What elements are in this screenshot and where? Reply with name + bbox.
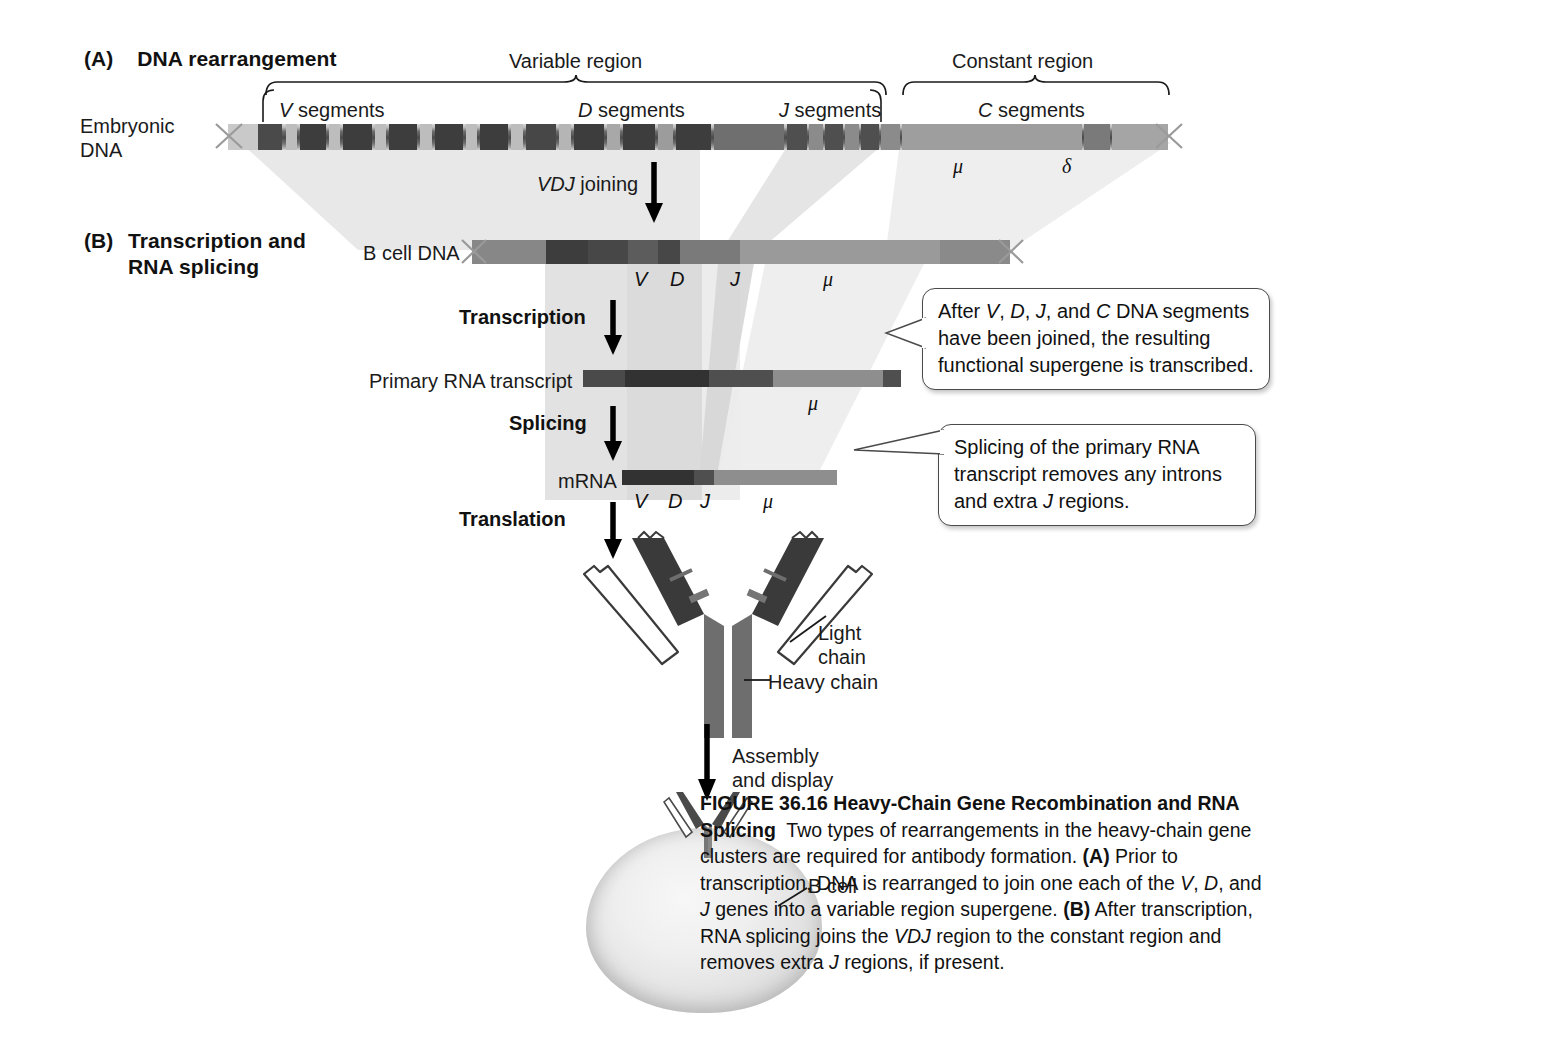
v-segments-bracket — [261, 89, 275, 123]
mrna-j-mark: J — [700, 490, 710, 513]
light-chain-label: Light chain — [818, 621, 866, 669]
figure-caption-b-tag: (B) — [1063, 898, 1090, 920]
vdj-joining-italic: VDJ — [537, 173, 575, 195]
c-segments-rest: segments — [992, 99, 1084, 121]
variable-region-bracket — [265, 74, 887, 96]
bcell-mu-mark: μ — [823, 268, 833, 291]
b-cell-dna-label: B cell DNA — [363, 241, 460, 265]
splicing-callout-line-2: transcript removes any introns — [954, 461, 1241, 488]
mrna-mu-mark: μ — [763, 490, 773, 513]
v-segments-italic: V — [279, 99, 292, 121]
v-segments-rest: segments — [292, 99, 384, 121]
embryonic-dna-left-cap — [214, 120, 240, 146]
panel-b-tag: (B) — [84, 228, 113, 254]
panel-b-title-1: Transcription and — [128, 228, 306, 254]
constant-region-bracket — [902, 74, 1170, 96]
heavy-chain-label: Heavy chain — [768, 670, 878, 694]
splicing-arrow — [600, 406, 626, 462]
embryonic-dna-bar — [228, 124, 1168, 150]
mrna-d-mark: D — [668, 490, 682, 513]
embryonic-dna-right-cap — [1152, 120, 1178, 146]
panel-b-title-2: RNA splicing — [128, 254, 306, 280]
j-segments-bracket — [869, 89, 883, 123]
d-segments-italic: D — [578, 99, 592, 121]
figure-number: FIGURE 36.16 — [700, 792, 828, 814]
mrna-label: mRNA — [558, 469, 617, 493]
c-segments-label: C segments — [978, 98, 1085, 122]
mrna-v-mark: V — [634, 490, 647, 513]
variable-region-label: Variable region — [509, 49, 642, 73]
embryonic-delta-label: δ — [1062, 155, 1071, 178]
figure-caption: FIGURE 36.16 Heavy-Chain Gene Recombinat… — [700, 790, 1266, 976]
vdj-joining-rest: joining — [575, 173, 638, 195]
transcription-arrow — [600, 300, 626, 356]
transcription-callout: After V, D, J, and C DNA segments have b… — [922, 288, 1270, 390]
splicing-step-label: Splicing — [509, 412, 587, 435]
panel-a-title: DNA rearrangement — [137, 47, 336, 70]
splicing-callout: Splicing of the primary RNA transcript r… — [938, 424, 1256, 526]
splicing-callout-line-1: Splicing of the primary RNA — [954, 434, 1241, 461]
transcription-callout-line-3: functional supergene is transcribed. — [938, 352, 1255, 379]
b-cell-dna-left-cap — [460, 237, 486, 263]
panel-a-heading: (A) DNA rearrangement — [84, 46, 337, 72]
d-segments-label: D segments — [578, 98, 685, 122]
bcell-j-mark: J — [730, 268, 740, 291]
b-cell-dna-right-cap — [996, 237, 1022, 263]
figure-canvas: (A) DNA rearrangement Variable region Co… — [0, 0, 1564, 1043]
b-cell-dna-bar — [472, 240, 1010, 264]
primary-rna-bar — [583, 370, 901, 387]
j-segments-label: J segments — [779, 98, 881, 122]
vdj-joining-label: VDJ joining — [537, 172, 638, 196]
embryonic-mu-label: μ — [953, 155, 963, 178]
splicing-callout-tail — [852, 428, 946, 462]
panel-b-heading: (B) Transcription and RNA splicing — [84, 228, 306, 280]
primary-rna-label: Primary RNA transcript — [369, 369, 572, 393]
splicing-callout-line-3: and extra J regions. — [954, 488, 1241, 515]
j-segments-rest: segments — [789, 99, 881, 121]
primary-mu-mark: μ — [808, 392, 818, 415]
constant-region-label: Constant region — [952, 49, 1093, 73]
bcell-v-mark: V — [634, 268, 647, 291]
transcription-callout-line-2: have been joined, the resulting — [938, 325, 1255, 352]
mrna-bar — [622, 470, 837, 485]
vdj-joining-arrow — [641, 162, 667, 224]
j-segments-italic: J — [779, 99, 789, 121]
d-segments-rest: segments — [592, 99, 684, 121]
figure-caption-a-tag: (A) — [1083, 845, 1110, 867]
transcription-step-label: Transcription — [459, 306, 586, 329]
translation-step-label: Translation — [459, 508, 566, 531]
transcription-callout-tail — [884, 316, 928, 350]
assembly-label: Assembly and display — [732, 744, 833, 792]
c-segments-italic: C — [978, 99, 992, 121]
panel-a-tag: (A) — [84, 47, 113, 70]
transcription-callout-line-1: After V, D, J, and C DNA segments — [938, 298, 1255, 325]
v-segments-label: V segments — [279, 98, 385, 122]
bcell-d-mark: D — [670, 268, 684, 291]
